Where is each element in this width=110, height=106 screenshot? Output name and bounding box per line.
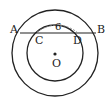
concentric-circles-diagram: A B C D O 6 — [0, 0, 110, 106]
label-c: C — [35, 34, 43, 47]
label-d: D — [73, 34, 82, 47]
label-a: A — [9, 23, 19, 36]
label-b: B — [97, 23, 105, 36]
label-o: O — [52, 57, 61, 70]
center-point — [53, 52, 56, 55]
label-cd-length: 6 — [55, 21, 61, 32]
